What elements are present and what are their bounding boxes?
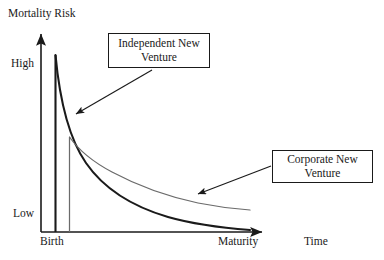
x-tick-label-birth: Birth [40,236,64,248]
independent-callout-leader [76,70,152,114]
callout-corporate-line1: Corporate New [284,153,361,167]
y-tick-label-high: High [11,58,34,70]
y-axis-title: Mortality Risk [8,8,75,20]
independent-new-venture-curve [56,55,251,230]
callout-corporate-new-venture: Corporate New Venture [272,150,373,183]
x-tick-label-maturity: Maturity [218,236,258,248]
corporate-callout-leader [198,166,271,194]
callout-independent-line2: Venture [115,51,202,65]
corporate-new-venture-curve [70,137,251,210]
callout-independent-new-venture: Independent New Venture [108,33,210,68]
x-axis-title: Time [304,236,328,248]
callout-corporate-line2: Venture [284,167,361,181]
callout-independent-line1: Independent New [115,37,202,51]
y-tick-label-low: Low [13,208,34,220]
chart-figure: Mortality Risk High Low Birth Maturity T… [0,0,384,260]
